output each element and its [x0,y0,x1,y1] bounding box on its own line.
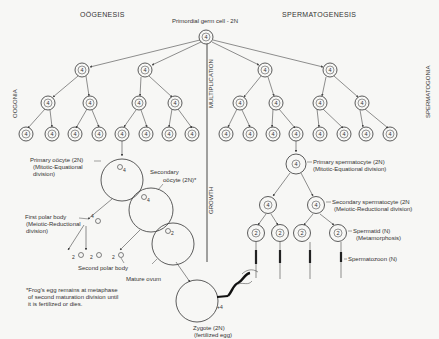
svg-text:4: 4 [50,131,53,137]
svg-text:4: 4 [342,131,345,137]
svg-text:2: 2 [278,230,281,236]
footnote-line3: it is fertilized or dies. [28,301,83,307]
oogonia-level2: 4 4 [75,63,152,77]
svg-text:(Metamorphosis): (Metamorphosis) [356,235,401,241]
svg-text:4: 4 [274,100,277,106]
spermatogonia-level2: 4 4 [258,63,337,77]
svg-text:2: 2 [112,254,115,260]
spermatogonia-level3: 4 4 4 4 [233,96,369,110]
secondary-spermatocytes: 4 4 [260,197,325,214]
mature-ovum: 2 [152,223,194,265]
svg-text:4: 4 [173,100,176,106]
svg-text:2: 2 [336,230,339,236]
oogonia-label: OOGONIA [12,89,18,118]
svg-text:4: 4 [91,213,94,219]
primary-oocyte: 4 [101,159,143,201]
oogonia-level3: 4 4 4 4 [41,96,182,110]
svg-text:+4: +4 [217,304,223,310]
svg-text:4: 4 [238,100,241,106]
second-polar-bodies: 2 2 2 [72,253,124,261]
svg-text:4: 4 [143,67,146,73]
zygote-label: Zygote (2N) [193,325,225,331]
oogonia-level4: 4 4 4 4 4 4 4 4 [19,127,199,141]
svg-text:oöcyte (2N)*: oöcyte (2N)* [163,177,197,183]
svg-text:4: 4 [190,131,193,137]
svg-text:2: 2 [90,254,93,260]
svg-text:4: 4 [388,131,391,137]
primary-spermatocyte: 4 [286,154,306,174]
footnote-line2: of second maturation division until [28,294,118,300]
svg-text:4: 4 [147,197,150,203]
svg-text:4: 4 [88,100,91,106]
svg-text:(Meiotic-Reductional: (Meiotic-Reductional [26,221,81,227]
spermatids: 2 2 2 2 [248,225,347,242]
svg-text:4: 4 [46,100,49,106]
spermatid-label: Spermatid (N) [353,228,390,234]
svg-text:4: 4 [144,131,147,137]
svg-text:division): division) [26,228,48,234]
svg-text:4: 4 [294,131,297,137]
primary-oocyte-label: Primary oöcyte (2N) [30,157,83,163]
svg-text:4: 4 [137,100,140,106]
secondary-oocyte-label: Secondary [150,169,179,175]
svg-text:2: 2 [254,230,257,236]
svg-text:4: 4 [80,67,83,73]
svg-text:division): division) [33,171,55,177]
primordial-label: Primordial germ cell - 2N [172,18,238,24]
oogenesis-title: OÖGENESIS [80,11,125,18]
spermatozoa [256,242,341,279]
growth-label: GROWTH [208,187,214,214]
spermatogenesis-title: SPERMATOGENESIS [282,11,356,18]
svg-text:4: 4 [204,34,207,40]
svg-text:(Mitotic-Equational: (Mitotic-Equational [33,164,83,170]
svg-text:(Meiotic-Reductional division): (Meiotic-Reductional division) [334,206,412,212]
svg-text:(fertilized egg): (fertilized egg) [194,332,232,338]
first-polar-body: 4 [91,213,101,224]
svg-text:4: 4 [328,67,331,73]
svg-text:4: 4 [318,100,321,106]
zygote: +4 [176,270,258,322]
svg-text:4: 4 [120,131,123,137]
svg-text:4: 4 [224,131,227,137]
svg-text:4: 4 [271,131,274,137]
svg-text:4: 4 [123,167,126,173]
second-polar-body-label: Second polar body [78,265,128,271]
svg-text:(Mitotic-Equational division): (Mitotic-Equational division) [313,166,386,172]
svg-text:4: 4 [266,202,269,208]
multiplication-label: MULTIPLICATION [208,59,214,108]
svg-text:2: 2 [300,230,303,236]
gametogenesis-diagram: OÖGENESIS SPERMATOGENESIS Primordial ger… [0,0,439,339]
spermatozoon-label: Spermatozoon (N) [348,256,397,262]
svg-text:4: 4 [314,202,317,208]
svg-text:4: 4 [294,161,297,167]
secondary-oocyte: 4 [129,188,173,232]
svg-text:4: 4 [24,131,27,137]
svg-text:4: 4 [318,131,321,137]
svg-text:4: 4 [97,131,100,137]
secondary-spermatocyte-label: Secondary spermatocyte (2N [332,199,410,205]
svg-text:2: 2 [72,254,75,260]
first-polar-body-label: First polar body [25,214,66,220]
svg-text:4: 4 [263,67,266,73]
svg-text:4: 4 [248,131,251,137]
primordial-germ-cell: 4 [199,30,213,44]
svg-text:4: 4 [364,131,367,137]
spermatogonia-label: SPERMATOGONIA [425,66,431,118]
primary-spermatocyte-label: Primary spermatocyte (2N) [313,159,385,165]
svg-text:4: 4 [73,131,76,137]
mature-ovum-label: Mature ovum [126,276,161,282]
spermatogonia-level4: 4 4 4 4 4 4 4 4 [219,127,397,141]
svg-text:2: 2 [171,230,174,236]
svg-text:4: 4 [167,131,170,137]
svg-text:4: 4 [360,100,363,106]
footnote-line1: *Frog's egg remains at metaphase [26,287,118,293]
